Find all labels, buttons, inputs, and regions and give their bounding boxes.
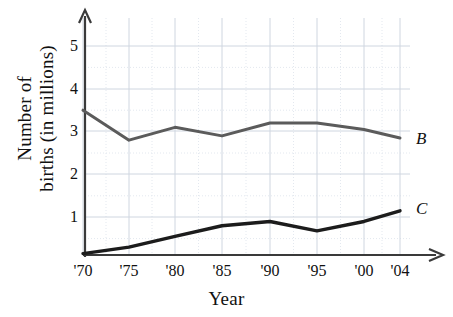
- y-tick-label-4: 4: [52, 80, 78, 98]
- x-tick-label-80: '80: [166, 262, 185, 280]
- x-tick-label-75: '75: [120, 262, 139, 280]
- y-tick-label-1: 1: [52, 208, 78, 226]
- minor-gridlines: [85, 18, 410, 255]
- x-tick-label-90: '90: [261, 262, 280, 280]
- series-label-C: C: [416, 199, 427, 219]
- x-tick-label-85: '85: [213, 262, 232, 280]
- y-tick-label-2: 2: [52, 165, 78, 183]
- x-tick-label-00: '00: [355, 262, 374, 280]
- births-line-chart: Number of births (in millions) Year 1234…: [0, 0, 453, 317]
- series-label-B: B: [416, 129, 426, 149]
- y-tick-label-3: 3: [52, 122, 78, 140]
- x-tick-label-04: '04: [391, 262, 410, 280]
- x-tick-label-70: '70: [74, 262, 93, 280]
- y-axis-title-line-1: Number of: [14, 18, 36, 218]
- series-lines: [83, 110, 400, 253]
- x-axis-title: Year: [0, 288, 453, 310]
- x-tick-label-95: '95: [308, 262, 327, 280]
- y-tick-label-5: 5: [52, 37, 78, 55]
- series-line-B: [83, 110, 400, 140]
